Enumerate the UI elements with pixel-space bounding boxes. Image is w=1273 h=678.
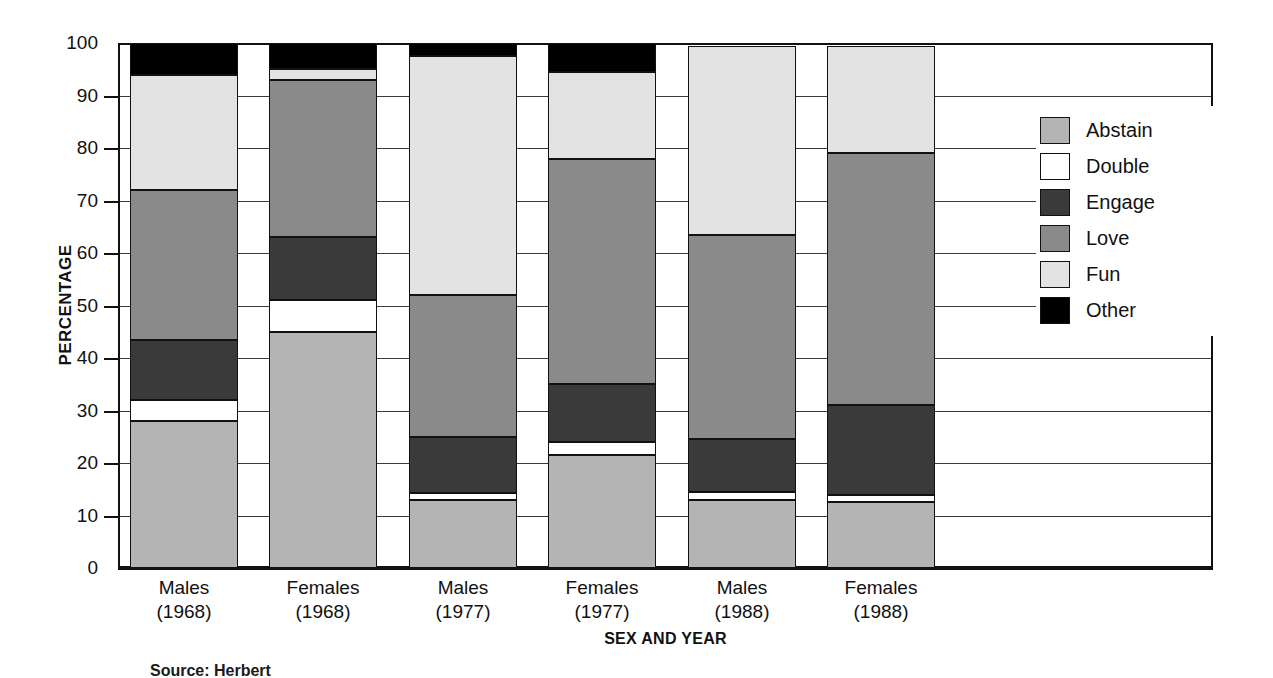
bar-males-1988[interactable] [688,43,796,568]
bar-males-1977[interactable] [409,43,517,568]
legend-item-fun[interactable]: Fun [1040,256,1214,292]
bar-males-1968[interactable] [130,43,238,568]
bar-females-1968[interactable] [269,43,377,568]
segment-other[interactable] [130,43,238,75]
legend-item-double[interactable]: Double [1040,148,1214,184]
x-label-name: Males [717,577,768,598]
segment-fun[interactable] [548,72,656,159]
legend-label-other: Other [1086,300,1136,320]
segment-love[interactable] [409,295,517,437]
segment-love[interactable] [827,153,935,405]
bar-females-1977[interactable] [548,43,656,568]
segment-fun[interactable] [269,69,377,80]
segment-abstain[interactable] [269,332,377,568]
legend-label-abstain: Abstain [1086,120,1153,140]
x-label-name: Females [287,577,360,598]
segment-love[interactable] [130,190,238,340]
legend-item-other[interactable]: Other [1040,292,1214,328]
legend-item-love[interactable]: Love [1040,220,1214,256]
legend-item-abstain[interactable]: Abstain [1040,112,1214,148]
segment-engage[interactable] [130,340,238,400]
engage-swatch [1040,189,1070,216]
x-label-5: Females(1988) [796,576,966,624]
segment-double[interactable] [548,442,656,455]
segment-fun[interactable] [130,75,238,191]
legend-label-love: Love [1086,228,1129,248]
chart-legend: AbstainDoubleEngageLoveFunOther [1036,106,1218,336]
legend-label-fun: Fun [1086,264,1120,284]
source-note: Source: Herbert [150,662,271,678]
x-label-name: Females [566,577,639,598]
love-swatch [1040,225,1070,252]
stacked-bar-chart: PERCENTAGE 1009080706050403020100 Males(… [0,0,1273,678]
segment-love[interactable] [688,235,796,440]
segment-fun[interactable] [688,46,796,235]
segment-fun[interactable] [409,56,517,295]
legend-item-engage[interactable]: Engage [1040,184,1214,220]
segment-engage[interactable] [548,384,656,442]
segment-double[interactable] [269,300,377,332]
segment-abstain[interactable] [409,500,517,568]
segment-abstain[interactable] [688,500,796,568]
bar-females-1988[interactable] [827,43,935,568]
segment-engage[interactable] [688,439,796,492]
segment-engage[interactable] [827,405,935,494]
segment-love[interactable] [548,159,656,385]
abstain-swatch [1040,117,1070,144]
segment-double[interactable] [688,492,796,500]
legend-label-double: Double [1086,156,1149,176]
segment-other[interactable] [269,43,377,69]
fun-swatch [1040,261,1070,288]
segment-engage[interactable] [269,237,377,300]
segment-abstain[interactable] [130,421,238,568]
x-axis-title: SEX AND YEAR [118,630,1213,648]
segment-abstain[interactable] [827,502,935,568]
double-swatch [1040,153,1070,180]
x-label-name: Males [159,577,210,598]
segment-fun[interactable] [827,46,935,154]
segment-double[interactable] [130,400,238,421]
segment-abstain[interactable] [548,455,656,568]
segment-double[interactable] [409,493,517,500]
segment-engage[interactable] [409,437,517,493]
legend-label-engage: Engage [1086,192,1155,212]
segment-double[interactable] [827,495,935,503]
other-swatch [1040,297,1070,324]
x-label-name: Males [438,577,489,598]
segment-love[interactable] [269,80,377,238]
segment-other[interactable] [409,43,517,56]
x-label-year: (1988) [796,600,966,624]
segment-other[interactable] [548,43,656,72]
x-label-name: Females [845,577,918,598]
